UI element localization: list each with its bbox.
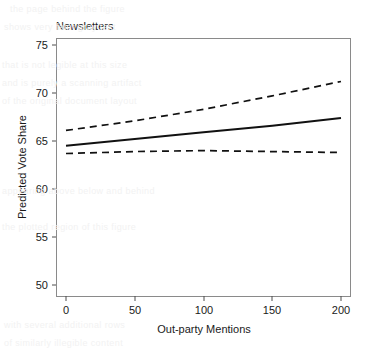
lower-confidence-line bbox=[66, 151, 341, 154]
background-ghost-text: of the original document layout bbox=[2, 96, 137, 106]
background-ghost-text: the page behind the figure bbox=[10, 4, 125, 14]
x-tick-label: 200 bbox=[332, 304, 350, 316]
figure-container: the page behind the figure shows very fa… bbox=[0, 0, 368, 350]
y-tick-label: 75 bbox=[36, 39, 48, 51]
y-tick-label: 65 bbox=[36, 135, 48, 147]
x-axis-tick-labels: 0 50 100 150 200 bbox=[63, 304, 350, 316]
x-axis-title: Out-party Mentions bbox=[157, 323, 251, 335]
y-tick-label: 50 bbox=[36, 279, 48, 291]
x-tick-label: 100 bbox=[195, 304, 213, 316]
predicted-vote-share-line bbox=[66, 118, 341, 146]
x-tick-label: 50 bbox=[129, 304, 141, 316]
background-ghost-text: of similarly illegible content bbox=[4, 338, 123, 348]
background-ghost-text: that is not legible at this size bbox=[2, 60, 127, 70]
predicted-vote-share-chart: Newsletters 75 70 65 60 55 50 Predicted … bbox=[0, 0, 368, 350]
chart-series-group bbox=[66, 81, 341, 153]
background-ghost-text: appearing above below and behind bbox=[2, 186, 155, 196]
y-axis-tick-labels: 75 70 65 60 55 50 bbox=[36, 39, 48, 291]
x-tick-label: 150 bbox=[263, 304, 281, 316]
background-ghost-text: with several additional rows bbox=[4, 320, 125, 330]
y-axis-title: Predicted Vote Share bbox=[16, 115, 28, 219]
background-ghost-text: shows very faint gray text bbox=[4, 22, 116, 32]
background-ghost-text: and is purely a scanning artifact bbox=[2, 78, 142, 88]
x-tick-label: 0 bbox=[63, 304, 69, 316]
background-ghost-text: the plotted region of this figure bbox=[2, 222, 136, 232]
y-tick-label: 55 bbox=[36, 231, 48, 243]
